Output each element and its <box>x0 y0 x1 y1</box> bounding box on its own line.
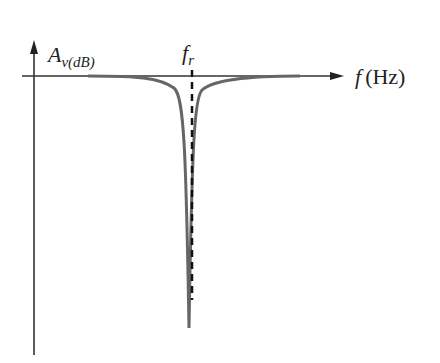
resonant-frequency-label: fr <box>182 40 194 68</box>
x-axis-label: f(Hz) <box>355 64 405 89</box>
x-axis-arrow-icon <box>330 72 344 80</box>
notch-curve <box>88 76 300 328</box>
y-axis-arrow-icon <box>30 40 38 54</box>
y-axis-label: Av(dB) <box>46 42 95 71</box>
notch-response-diagram: Av(dB) fr f(Hz) <box>0 0 440 363</box>
